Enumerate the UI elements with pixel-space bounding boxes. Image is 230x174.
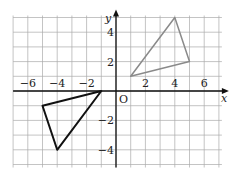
y-axis-arrow-icon — [113, 10, 119, 17]
y-tick-label: 2 — [107, 56, 114, 69]
x-tick-label: −2 — [78, 77, 94, 90]
x-tick-label: −6 — [20, 77, 36, 90]
x-axis-label: x — [221, 92, 228, 105]
x-tick-label: 6 — [201, 77, 208, 90]
y-axis-label: y — [104, 12, 112, 25]
y-tick-label: 4 — [107, 26, 114, 39]
x-tick-label: −4 — [49, 77, 65, 90]
y-tick-label: −2 — [98, 114, 114, 127]
y-tick-label: −4 — [98, 144, 114, 157]
axes — [13, 10, 229, 168]
origin-label: O — [119, 93, 128, 106]
x-tick-label: 2 — [142, 77, 149, 90]
coordinate-plane: −6−4−224642−2−4xyO — [0, 0, 230, 174]
x-tick-label: 4 — [171, 77, 178, 90]
